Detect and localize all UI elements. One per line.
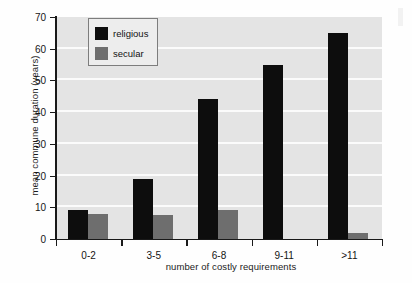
x-category-label: 6-8 [189, 250, 249, 261]
scan-artifact [398, 8, 403, 26]
y-tick-mark [50, 17, 56, 18]
bar-chart-figure: mean commune duration (years) 0102030405… [0, 0, 412, 283]
legend-item-religious: religious [95, 24, 152, 42]
x-category-label: 9-11 [254, 250, 314, 261]
x-tick-mark [317, 239, 318, 246]
y-axis-ticks: 010203040506070 [0, 0, 412, 283]
x-tick-mark [382, 239, 383, 246]
y-tick-label: 50 [16, 75, 46, 86]
y-tick-mark [50, 144, 56, 145]
y-tick-label: 60 [16, 43, 46, 54]
y-tick-label: 30 [16, 138, 46, 149]
legend-label-secular: secular [113, 48, 144, 59]
y-tick-mark [50, 49, 56, 50]
y-tick-mark [50, 80, 56, 81]
y-tick-mark [50, 112, 56, 113]
religious-swatch-icon [95, 27, 108, 40]
x-tick-mark [252, 239, 253, 246]
legend-label-religious: religious [113, 28, 148, 39]
y-tick-label: 0 [16, 234, 46, 245]
y-tick-label: 20 [16, 170, 46, 181]
x-category-label: 3-5 [124, 250, 184, 261]
x-axis-title: number of costly requirements [56, 261, 406, 272]
x-tick-mark [186, 239, 187, 246]
x-tick-mark [121, 239, 122, 246]
x-tick-mark [56, 239, 57, 246]
x-category-label: >11 [319, 250, 379, 261]
y-tick-label: 70 [16, 12, 46, 23]
y-tick-label: 40 [16, 107, 46, 118]
x-category-label: 0-2 [59, 250, 119, 261]
secular-swatch-icon [95, 47, 108, 60]
y-tick-label: 10 [16, 202, 46, 213]
y-tick-mark [50, 176, 56, 177]
chart-legend: religious secular [88, 18, 158, 66]
y-tick-mark [50, 207, 56, 208]
legend-item-secular: secular [95, 44, 152, 62]
